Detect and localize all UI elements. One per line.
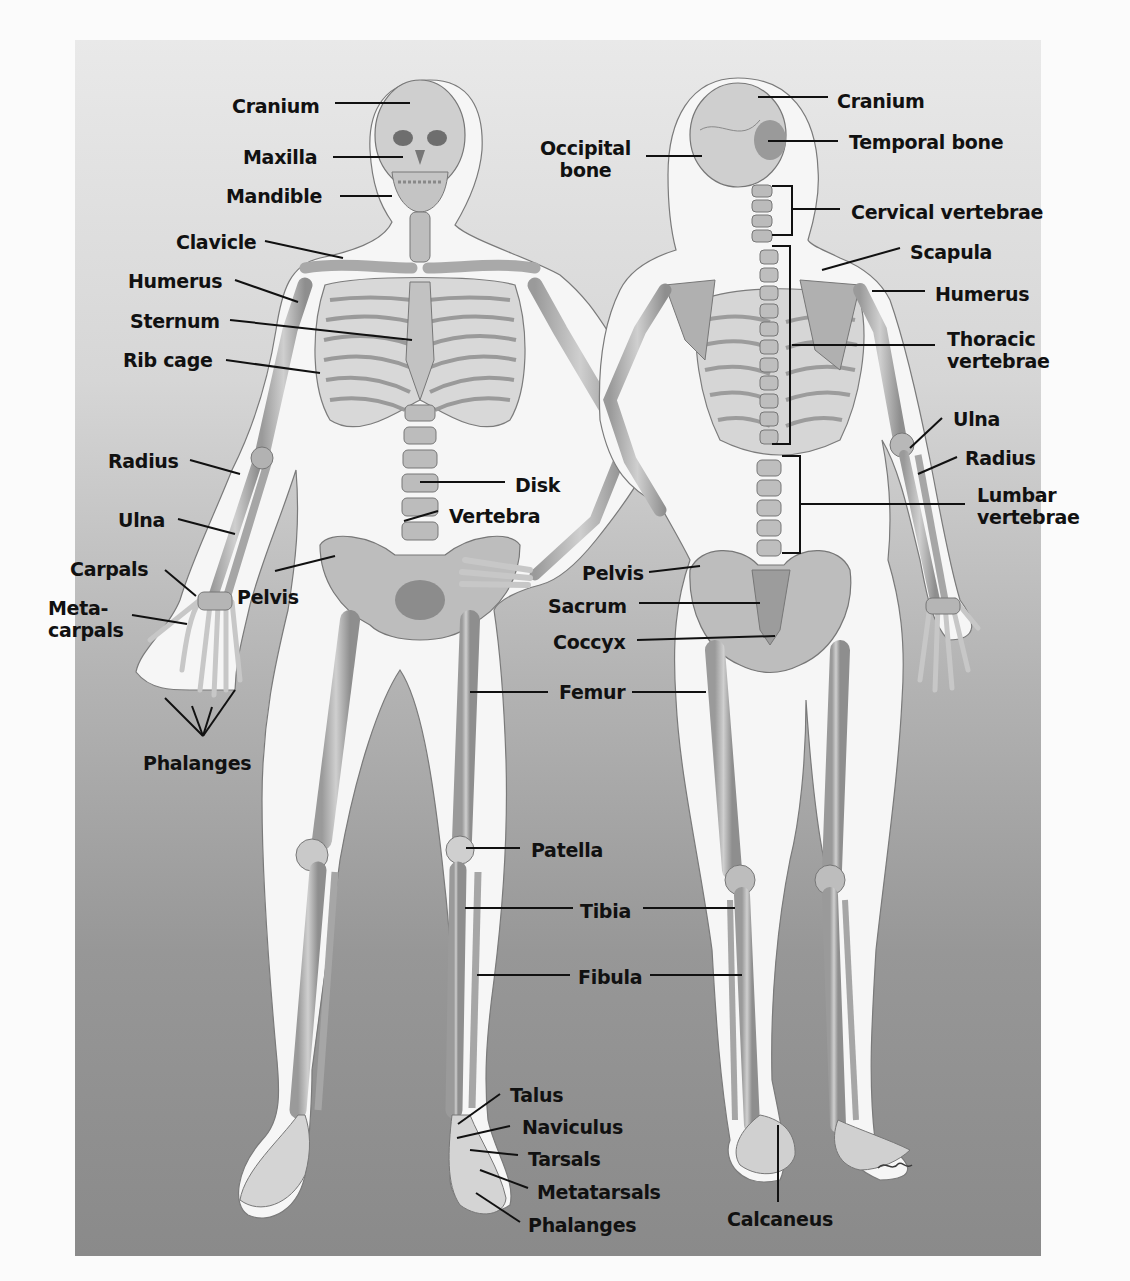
label-temporal-bone: Temporal bone: [849, 131, 1003, 153]
label-rib-cage: Rib cage: [123, 349, 213, 371]
label-naviculus: Naviculus: [522, 1116, 623, 1138]
label-scapula: Scapula: [910, 241, 992, 263]
label-disk: Disk: [515, 474, 560, 496]
label-pelvis: Pelvis: [237, 586, 299, 608]
label-tibia: Tibia: [580, 900, 631, 922]
label-metacarpals: Meta-carpals: [48, 597, 124, 641]
posterior-femur-right: [832, 650, 840, 870]
label-coccyx: Coccyx: [553, 631, 625, 653]
label-occipital-bone: Occipitalbone: [540, 137, 631, 181]
phalanges-hand-leader-line: [203, 690, 235, 736]
label-sacrum: Sacrum: [548, 595, 627, 617]
label-humerus-posterior: Humerus: [935, 283, 1029, 305]
label-talus: Talus: [510, 1084, 563, 1106]
anterior-femur-left: [462, 620, 470, 840]
label-mandible: Mandible: [226, 185, 322, 207]
label-fibula: Fibula: [578, 966, 642, 988]
label-femur: Femur: [559, 681, 625, 703]
phalanges-hand-leader-line: [165, 698, 203, 736]
label-radius-posterior: Radius: [965, 447, 1036, 469]
label-phalanges-foot: Phalanges: [528, 1214, 636, 1236]
label-patella: Patella: [531, 839, 603, 861]
label-ulna-posterior: Ulna: [953, 408, 1000, 430]
label-lumbar-vertebrae: Lumbarvertebrae: [977, 484, 1080, 528]
phalanges-hand-leader-line: [203, 707, 212, 736]
label-cervical-vertebrae: Cervical vertebrae: [851, 201, 1043, 223]
label-clavicle: Clavicle: [176, 231, 256, 253]
label-sternum: Sternum: [130, 310, 220, 332]
label-cranium: Cranium: [232, 95, 319, 117]
label-radius: Radius: [108, 450, 179, 472]
label-thoracic-vertebrae: Thoracicvertebrae: [947, 328, 1050, 372]
radius-leader-line: [190, 460, 240, 474]
label-vertebra: Vertebra: [449, 505, 540, 527]
label-ulna: Ulna: [118, 509, 165, 531]
label-cranium-posterior: Cranium: [837, 90, 924, 112]
clavicle-leader-line: [265, 241, 343, 258]
label-phalanges-hand: Phalanges: [143, 752, 251, 774]
label-pelvis-posterior: Pelvis: [582, 562, 644, 584]
label-calcaneus: Calcaneus: [727, 1208, 833, 1230]
anterior-tibia: [454, 870, 458, 1110]
label-humerus: Humerus: [128, 270, 222, 292]
label-carpals: Carpals: [70, 558, 148, 580]
label-tarsals: Tarsals: [528, 1148, 601, 1170]
label-metatarsals: Metatarsals: [537, 1181, 661, 1203]
label-maxilla: Maxilla: [243, 146, 317, 168]
